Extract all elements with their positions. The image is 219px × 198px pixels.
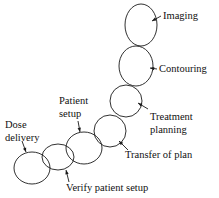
label-line: setup: [59, 108, 81, 119]
leader-treatment-planning: [138, 103, 148, 109]
arrow-head-contouring: [150, 67, 154, 70]
label-patient-setup: Patientsetup: [59, 95, 88, 119]
node-dose-delivery[interactable]: [14, 152, 50, 184]
label-line: Patient: [59, 95, 88, 106]
leader-patient-setup: [78, 121, 81, 132]
node-imaging[interactable]: [125, 4, 157, 46]
leader-verify-patient-setup: [65, 170, 69, 182]
leader-contouring: [150, 67, 157, 70]
label-line: planning: [150, 124, 187, 135]
label-transfer-of-plan: Transfer of plan: [125, 149, 193, 160]
node-treatment-planning[interactable]: [110, 85, 142, 117]
label-line: Contouring: [159, 63, 208, 74]
label-line: Transfer of plan: [125, 149, 193, 160]
label-line: Imaging: [163, 10, 199, 21]
label-line: Verify patient setup: [66, 182, 148, 193]
label-verify-patient-setup: Verify patient setup: [66, 182, 148, 193]
arrow-head-patient-setup: [78, 128, 81, 132]
label-contouring: Contouring: [159, 63, 208, 74]
label-line: Treatment: [150, 111, 193, 122]
label-line: Dose: [5, 119, 27, 130]
arrow-head-dose-delivery: [23, 147, 26, 152]
label-line: delivery: [5, 132, 40, 143]
diagram-canvas: Imaging Contouring Treatmentplanning Tra…: [0, 0, 219, 198]
node-contouring[interactable]: [119, 46, 153, 86]
leader-dose-delivery: [22, 141, 26, 152]
label-group: Imaging Contouring Treatmentplanning Tra…: [5, 10, 208, 193]
label-dose-delivery: Dosedelivery: [5, 119, 40, 143]
node-patient-setup[interactable]: [66, 132, 102, 164]
label-imaging: Imaging: [163, 10, 199, 21]
workflow-diagram: Imaging Contouring Treatmentplanning Tra…: [0, 0, 219, 198]
label-treatment-planning: Treatmentplanning: [150, 111, 193, 135]
